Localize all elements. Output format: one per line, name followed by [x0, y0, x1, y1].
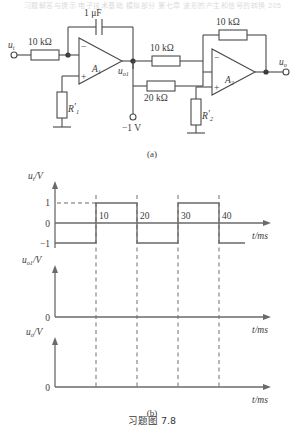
circuit-diagram-a: ui 10 kΩ 1 μF A1 − + R′1 uo1 10 kΩ 20 kΩ…	[0, 0, 305, 165]
yaxis-title-panel1: ui/V	[28, 171, 44, 182]
label-cap-1uf: 1 μF	[84, 8, 102, 18]
waveform-panels-b: 1 0 −1 10 20 30 40 ui/V t/ms 0 uo1/V t/m…	[0, 165, 305, 431]
xaxis-title-panel1: t/ms	[252, 231, 268, 241]
xaxis-arrow-panel3	[263, 384, 271, 390]
label-resistor-bias-r2: R′2	[201, 109, 213, 122]
xtick-label-30: 30	[181, 211, 191, 221]
label-a2-inverting-sign: −	[214, 53, 219, 63]
yaxis-title-panel2: uo1/V	[22, 255, 43, 266]
label-resistor-input2-10k: 10 kΩ	[150, 43, 174, 53]
figure-page: 习题解答与提示 电子技术基础 模拟部分 第七章 波形的产生和信号的转换 205	[0, 0, 305, 434]
xtick-label-20: 20	[140, 211, 150, 221]
figure-caption-wrap: 习题图 7.8	[0, 412, 305, 434]
resistor-input-10k	[31, 50, 59, 60]
ytick-label-zero-panel2: 0	[45, 313, 50, 323]
ytick-label-zero-panel1: 0	[45, 219, 50, 229]
plot-integrator-output-waveform: 0 uo1/V t/ms	[22, 255, 271, 335]
label-resistor-input-10k: 10 kΩ	[28, 37, 52, 47]
plot-output-waveform: 0 uo/V t/ms	[26, 327, 271, 405]
yaxis-arrow-panel3	[52, 337, 58, 345]
input-terminal	[11, 52, 17, 58]
label-resistor-ref-20k: 20 kΩ	[144, 93, 168, 103]
reference-source-terminal	[130, 114, 136, 120]
xaxis-title-panel3: t/ms	[252, 395, 268, 405]
xtick-label-10: 10	[99, 211, 109, 221]
resistor-feedback-10k	[219, 30, 247, 40]
label-input-ui: ui	[8, 40, 15, 51]
resistor-ref-20k	[147, 81, 175, 91]
label-output-uo: uo	[279, 57, 287, 68]
xtick-label-40: 40	[222, 211, 232, 221]
caption-a: (a)	[147, 149, 157, 159]
ytick-label-bottom-panel1: −1	[40, 239, 50, 249]
figure-caption: 习题图 7.8	[128, 415, 176, 426]
xaxis-arrow-panel2	[263, 314, 271, 320]
label-node-uo1: uo1	[118, 66, 129, 77]
resistor-bias-r1	[57, 92, 67, 118]
label-resistor-bias-r1: R′1	[67, 102, 79, 115]
yaxis-title-panel3: uo/V	[26, 327, 43, 338]
label-a1-inverting-sign: −	[81, 42, 86, 52]
xaxis-title-panel2: t/ms	[252, 325, 268, 335]
ytick-label-top-panel1: 1	[45, 198, 50, 208]
label-a1-noninverting-sign: +	[81, 72, 86, 82]
output-terminal	[283, 69, 289, 75]
label-resistor-feedback-10k: 10 kΩ	[216, 17, 240, 27]
xaxis-arrow-panel1	[263, 220, 271, 226]
label-a2-noninverting-sign: +	[214, 83, 219, 93]
resistor-bias-r2	[191, 99, 201, 125]
resistor-input2-10k	[152, 56, 180, 66]
yaxis-arrow-panel2	[52, 265, 58, 273]
label-reference-source: −1 V	[122, 123, 141, 133]
ytick-label-zero-panel3: 0	[45, 383, 50, 393]
yaxis-arrow-panel1	[52, 181, 58, 189]
plot-input-waveform: 1 0 −1 10 20 30 40 ui/V t/ms	[28, 171, 271, 249]
